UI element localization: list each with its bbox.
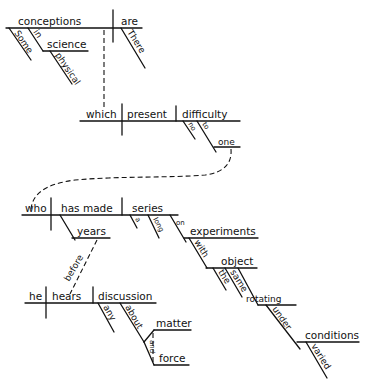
main-clause: conceptions are Some in science physical… [6,10,148,87]
modifier-line-years [60,215,75,240]
adverbial-clause: he hears discussion any about and matter… [25,287,192,365]
relative-connector-curve [31,149,231,210]
word-same: same [228,268,250,294]
word-hears: hears [52,290,81,302]
word-rotating: rotating [246,294,282,304]
word-object: object [221,255,253,267]
word-under: under [270,304,293,332]
word-which: which [86,108,117,120]
sentence-diagram: conceptions are Some in science physical… [0,0,367,389]
word-matter: matter [156,317,192,329]
word-discussion: discussion [98,290,152,302]
word-present: present [127,108,167,120]
word-force: force [159,352,185,364]
word-series: series [132,202,163,214]
word-before: before [62,253,85,283]
relative-clause-2: who has made series years a long on expe… [22,198,359,378]
word-one: one [218,137,235,147]
word-on: on [176,219,185,227]
word-has-made: has made [61,202,113,214]
word-conceptions: conceptions [18,15,81,27]
word-who: who [25,202,47,214]
word-and: and [148,340,156,353]
word-experiments: experiments [190,225,256,237]
word-about: about [123,303,145,331]
word-conditions: conditions [305,329,359,341]
word-he: he [29,290,42,302]
word-no: no [186,121,197,133]
word-years: years [77,225,106,237]
word-physical: physical [53,51,82,87]
word-difficulty: difficulty [182,108,227,120]
relative-clause-1: which present difficulty no to one [80,104,240,152]
word-are: are [121,15,138,27]
word-in: in [31,28,44,40]
word-science: science [47,38,87,50]
